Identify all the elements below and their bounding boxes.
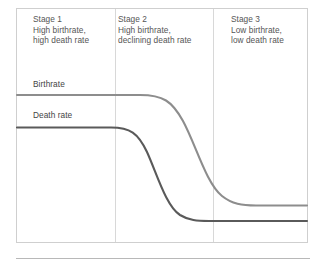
stage-2-desc-line-2: declining death rate — [118, 35, 191, 46]
stage-2-title: Stage 2 — [118, 14, 191, 25]
birthrate-series-label: Birthrate — [33, 79, 65, 89]
demographic-transition-figure: Stage 1 High birthrate, high death rate … — [0, 0, 326, 267]
stage-3-annotation: Stage 3 Low birthrate, low death rate — [231, 14, 284, 46]
stage-2-annotation: Stage 2 High birthrate, declining death … — [118, 14, 191, 46]
death-rate-series-label: Death rate — [33, 110, 72, 120]
stage-3-desc-line-2: low death rate — [231, 35, 284, 46]
stage-3-title: Stage 3 — [231, 14, 284, 25]
stage-1-title: Stage 1 — [33, 14, 89, 25]
stage-1-desc-line-2: high death rate — [33, 35, 89, 46]
stage-2-desc-line-1: High birthrate, — [118, 25, 191, 36]
stage-1-annotation: Stage 1 High birthrate, high death rate — [33, 14, 89, 46]
stage-3-desc-line-1: Low birthrate, — [231, 25, 284, 36]
stage-1-desc-line-1: High birthrate, — [33, 25, 89, 36]
death-rate-curve — [17, 128, 307, 222]
